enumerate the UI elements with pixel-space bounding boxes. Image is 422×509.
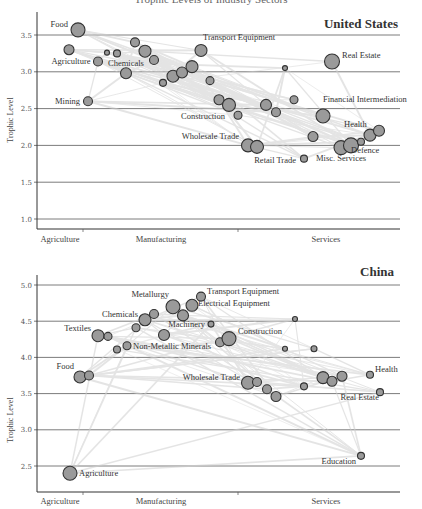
y-tick-label: 1.5 (21, 179, 32, 187)
node-label: Metallurgy (131, 289, 169, 299)
sector-node[interactable] (223, 98, 236, 111)
sector-node[interactable] (114, 346, 121, 353)
sector-node[interactable] (222, 332, 236, 346)
sector-node[interactable] (123, 342, 131, 350)
node-label: Health (375, 364, 398, 374)
sector-node[interactable] (159, 329, 170, 340)
y-tick-label: 3.0 (21, 426, 32, 434)
sector-node[interactable] (186, 299, 198, 311)
sector-node[interactable] (316, 109, 330, 123)
sector-node[interactable] (272, 108, 281, 117)
sector-node[interactable] (234, 111, 242, 119)
sector-node[interactable] (263, 385, 272, 394)
sector-node[interactable] (63, 466, 77, 480)
x-category-label: Manufacturing (136, 496, 187, 506)
sector-node[interactable] (311, 346, 317, 352)
sector-node[interactable] (160, 79, 167, 86)
sector-node[interactable] (121, 68, 132, 79)
node-label: Transport Equipment (203, 32, 276, 42)
node-label: Wholesale Trade (182, 131, 240, 141)
y-tick-label: 2.5 (21, 463, 32, 471)
y-axis-title: Trophic Level (6, 97, 15, 143)
sector-node[interactable] (197, 292, 206, 301)
sector-node[interactable] (358, 452, 365, 459)
node-label: Mining (55, 96, 81, 106)
sector-node[interactable] (104, 332, 112, 340)
node-label: Food (57, 361, 75, 371)
sector-node[interactable] (301, 155, 308, 162)
sector-node[interactable] (71, 23, 85, 37)
figure: Trophic Levels of Industry Sectors1.01.5… (0, 0, 422, 509)
sector-node[interactable] (166, 300, 180, 314)
x-category-label: Services (312, 496, 341, 506)
sector-node[interactable] (283, 346, 288, 351)
sector-node[interactable] (271, 391, 281, 401)
sector-node[interactable] (253, 378, 262, 387)
node-label: Health (344, 119, 367, 129)
sector-node[interactable] (261, 99, 272, 110)
sector-node[interactable] (139, 45, 151, 57)
sector-node[interactable] (150, 309, 159, 318)
node-label: Education (322, 456, 357, 466)
node-label: Wholesale Trade (183, 372, 241, 382)
sector-node[interactable] (114, 50, 121, 57)
sector-node[interactable] (337, 371, 347, 381)
node-label: Food (51, 19, 69, 29)
edge (295, 319, 304, 386)
node-label: Financial Intermediation (323, 94, 408, 104)
sector-node[interactable] (206, 77, 214, 85)
panel-title: United States (324, 16, 398, 31)
sector-node[interactable] (92, 330, 104, 342)
sector-node[interactable] (208, 321, 214, 327)
sector-node[interactable] (150, 56, 159, 65)
sector-node[interactable] (308, 132, 318, 142)
us-panel: 1.01.52.02.53.03.5AgricultureManufacturi… (6, 12, 408, 244)
node-label: Construction (181, 111, 226, 121)
sector-node[interactable] (131, 38, 140, 47)
sector-node[interactable] (325, 54, 340, 69)
node-label: Defence (351, 145, 380, 155)
node-label: Chemicals (102, 309, 138, 319)
sector-node[interactable] (85, 371, 94, 380)
y-tick-label: 4.5 (21, 318, 32, 326)
sector-node[interactable] (84, 97, 93, 106)
sector-node[interactable] (301, 383, 308, 390)
node-label: Chemicals (108, 58, 144, 68)
node-label: Electrical Equipment (198, 298, 271, 308)
node-label: Non-Metallic Minerals (133, 341, 211, 351)
edge (70, 336, 98, 474)
sector-node[interactable] (251, 140, 264, 153)
sector-node[interactable] (94, 57, 103, 66)
sector-node[interactable] (105, 50, 110, 55)
sector-node[interactable] (186, 61, 198, 73)
panel-title: China (360, 264, 394, 279)
node-label: Machinery (168, 319, 206, 329)
y-tick-label: 5.0 (21, 282, 32, 290)
sector-node[interactable] (64, 45, 74, 55)
sector-node[interactable] (139, 314, 151, 326)
y-tick-label: 2.0 (21, 142, 32, 150)
y-tick-label: 3.5 (21, 390, 32, 398)
sector-node[interactable] (283, 66, 288, 71)
figure-title: Trophic Levels of Industry Sectors (135, 0, 288, 5)
node-label: Real Estate (342, 50, 381, 60)
y-axis-title: Trophic Level (6, 397, 15, 443)
x-category-label: Agriculture (40, 496, 79, 506)
sector-node[interactable] (327, 376, 337, 386)
sector-node[interactable] (290, 96, 298, 104)
y-tick-label: 3.5 (21, 32, 32, 40)
node-label: Retail Trade (254, 155, 296, 165)
y-tick-label: 1.0 (21, 216, 32, 224)
sector-node[interactable] (293, 317, 298, 322)
y-tick-label: 3.0 (21, 68, 32, 76)
node-label: Construction (238, 326, 283, 336)
sector-node[interactable] (374, 125, 385, 136)
sector-node[interactable] (132, 324, 140, 332)
x-category-label: Agriculture (40, 234, 79, 244)
node-label: Transport Equipment (207, 286, 280, 296)
node-label: Real Estate (341, 392, 380, 402)
sector-node[interactable] (367, 371, 374, 378)
sector-node[interactable] (195, 44, 207, 56)
node-label: Textiles (64, 323, 91, 333)
y-tick-label: 2.5 (21, 105, 32, 113)
